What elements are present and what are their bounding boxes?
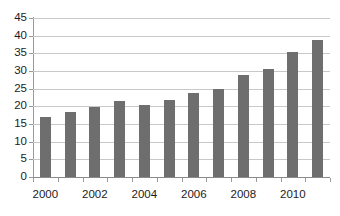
gridline [33,36,330,37]
y-axis-tick [29,106,33,107]
gridline [33,89,330,90]
gridline [33,106,330,107]
y-axis-tick-label: 45 [3,12,27,23]
gridline [33,124,330,125]
y-axis-tick-label: 20 [3,100,27,111]
y-axis-tick-label: 40 [3,30,27,41]
bar [312,40,323,177]
y-axis-tick [29,53,33,54]
gridline [33,18,330,19]
y-axis-tick [29,159,33,160]
y-axis-tick [29,18,33,19]
y-axis-tick-label: 0 [3,171,27,182]
y-axis-tick-label: 5 [3,153,27,164]
x-axis-tick [206,178,207,182]
x-axis-tick [132,178,133,182]
bar [89,107,100,177]
gridline [33,159,330,160]
y-axis-tick-label: 35 [3,47,27,58]
x-axis-tick [58,178,59,182]
x-axis-tick [305,178,306,182]
y-axis-tick [29,124,33,125]
bar [40,117,51,177]
bar [238,75,249,177]
x-axis-tick [157,178,158,182]
y-axis-tick [29,89,33,90]
x-axis-tick-label: 2004 [124,188,164,200]
x-axis-tick [281,178,282,182]
y-axis-tick-label: 15 [3,118,27,129]
bar-chart: 454035302520151050 200020022004200620082… [0,0,340,216]
y-axis-tick [29,71,33,72]
x-axis-tick-label: 2000 [25,188,65,200]
y-axis-tick-label: 30 [3,65,27,76]
x-axis-tick-label: 2008 [223,188,263,200]
gridline [33,142,330,143]
x-axis-tick [330,178,331,182]
y-axis-labels: 454035302520151050 [0,0,27,216]
y-axis-tick [29,36,33,37]
x-axis-tick-label: 2002 [75,188,115,200]
gridline [33,71,330,72]
x-axis-tick [256,178,257,182]
y-axis-tick [29,142,33,143]
x-axis-tick-label: 2010 [273,188,313,200]
bar [65,112,76,177]
bar [188,93,199,177]
bar [287,52,298,177]
plot-area [33,18,330,177]
gridline [33,53,330,54]
x-axis-tick [83,178,84,182]
bar [164,100,175,177]
bar [114,101,125,177]
x-axis-tick-label: 2006 [174,188,214,200]
x-axis-tick [107,178,108,182]
x-axis-tick [182,178,183,182]
y-axis-tick-label: 10 [3,136,27,147]
bar [139,105,150,177]
y-axis-tick-label: 25 [3,83,27,94]
bar [213,89,224,177]
bar [263,69,274,177]
x-axis-tick [33,178,34,182]
x-axis-tick [231,178,232,182]
